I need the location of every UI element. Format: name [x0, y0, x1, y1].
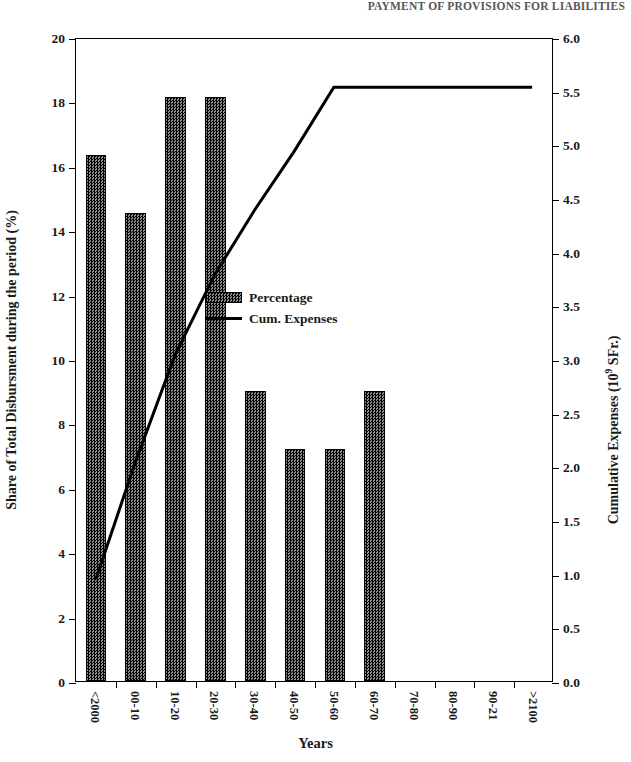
y-axis-right-tick	[552, 254, 559, 255]
x-axis-category-label: 60-70	[367, 691, 380, 720]
y-axis-right-tick-label: 1.5	[563, 515, 580, 529]
y-axis-left-tick	[69, 361, 76, 362]
y-axis-left-tick	[69, 103, 76, 104]
legend-line-swatch-icon	[206, 317, 242, 320]
legend-item-cum-expenses: Cum. Expenses	[206, 308, 386, 329]
bar	[86, 155, 107, 681]
cum-expenses-polyline	[96, 87, 532, 579]
y-axis-right-tick-label: 3.5	[563, 301, 580, 315]
y-axis-left-tick-label: 4	[58, 547, 65, 561]
x-axis-category-label: 30-40	[248, 691, 261, 720]
x-axis-category-label: 00-10	[128, 691, 141, 720]
y-axis-left-tick	[69, 554, 76, 555]
y-axis-right-title-exponent: 9	[604, 369, 614, 374]
y-axis-left-tick-label: 20	[52, 32, 66, 46]
x-axis-category-label: 10-20	[168, 691, 181, 720]
y-axis-right-tick-label: 0.5	[563, 623, 580, 637]
y-axis-right-tick	[552, 307, 559, 308]
x-axis-category-label: <2000	[88, 691, 101, 723]
y-axis-right-tick-label: 3.0	[563, 354, 580, 368]
y-axis-left-tick-label: 2	[58, 612, 65, 626]
legend-label-percentage: Percentage	[249, 290, 312, 306]
y-axis-left-tick-label: 18	[52, 97, 66, 111]
y-axis-left-tick-label: 8	[58, 419, 65, 433]
y-axis-right-title-base: Cumulative Expenses (10	[606, 373, 621, 524]
x-axis-tick	[156, 681, 157, 688]
x-axis-tick	[275, 681, 276, 688]
bar	[125, 213, 146, 682]
x-axis-tick	[315, 681, 316, 688]
y-axis-right-tick	[552, 683, 559, 684]
y-axis-right-title: Cumulative Expenses (109 SFr.)	[606, 336, 622, 525]
bar	[205, 97, 226, 681]
y-axis-right-tick-label: 5.0	[563, 140, 580, 154]
y-axis-left-tick	[69, 425, 76, 426]
y-axis-right-tick	[552, 468, 559, 469]
y-axis-left-tick	[69, 168, 76, 169]
y-axis-left-tick-label: 16	[52, 161, 66, 175]
y-axis-left-tick	[69, 619, 76, 620]
y-axis-right-tick-label: 2.0	[563, 462, 580, 476]
y-axis-right-tick	[552, 415, 559, 416]
y-axis-left-tick-label: 10	[52, 354, 66, 368]
x-axis-tick	[196, 681, 197, 688]
y-axis-left-tick	[69, 490, 76, 491]
y-axis-left-title: Share of Total Disbursment during the pe…	[4, 210, 20, 510]
x-axis-category-label: >2100	[527, 691, 540, 723]
y-axis-right-tick-label: 2.5	[563, 408, 580, 422]
y-axis-right-tick	[552, 629, 559, 630]
y-axis-right-tick-label: 4.5	[563, 193, 580, 207]
x-axis-tick	[514, 681, 515, 688]
legend-bar-swatch-icon	[206, 292, 242, 303]
x-axis-tick	[235, 681, 236, 688]
x-axis-tick	[395, 681, 396, 688]
y-axis-right-tick	[552, 200, 559, 201]
x-axis-category-label: 50-60	[327, 691, 340, 720]
y-axis-left-tick-label: 0	[58, 676, 65, 690]
x-axis-category-label: 40-50	[288, 691, 301, 720]
y-axis-left-tick	[69, 683, 76, 684]
y-axis-right-tick-label: 0.0	[563, 676, 580, 690]
x-axis-title: Years	[0, 735, 631, 752]
line-series-cum-expenses	[76, 39, 552, 681]
y-axis-right-tick-label: 6.0	[563, 32, 580, 46]
legend-item-percentage: Percentage	[206, 287, 386, 308]
x-axis-category-label: 80-90	[447, 691, 460, 720]
x-axis-tick	[474, 681, 475, 688]
y-axis-left-tick	[69, 297, 76, 298]
y-axis-right-tick	[552, 146, 559, 147]
chart-figure: Share of Total Disbursment during the pe…	[0, 0, 631, 762]
bar	[364, 391, 385, 681]
legend-label-cum-expenses: Cum. Expenses	[249, 311, 338, 327]
y-axis-right-tick-label: 5.5	[563, 86, 580, 100]
x-axis-category-label: 20-30	[208, 691, 221, 720]
bar	[165, 97, 186, 681]
y-axis-left-tick-label: 14	[52, 225, 66, 239]
bar	[285, 449, 306, 681]
x-axis-tick	[355, 681, 356, 688]
x-axis-category-label: 90-21	[487, 691, 500, 720]
bar	[325, 449, 346, 681]
y-axis-right-tick	[552, 39, 559, 40]
y-axis-right-tick	[552, 93, 559, 94]
chart-legend: Percentage Cum. Expenses	[206, 287, 386, 329]
bar	[245, 391, 266, 681]
y-axis-right-tick	[552, 576, 559, 577]
y-axis-right-tick	[552, 361, 559, 362]
y-axis-left-tick-label: 6	[58, 483, 65, 497]
y-axis-right-tick-label: 1.0	[563, 569, 580, 583]
y-axis-left-tick	[69, 39, 76, 40]
x-axis-tick	[435, 681, 436, 688]
y-axis-right-tick	[552, 522, 559, 523]
y-axis-left-tick	[69, 232, 76, 233]
y-axis-right-title-tail: SFr.)	[606, 336, 621, 369]
x-axis-category-label: 70-80	[407, 691, 420, 720]
plot-area: 02468101214161820 0.00.51.01.52.02.53.03…	[75, 38, 553, 682]
y-axis-left-tick-label: 12	[52, 290, 66, 304]
x-axis-tick	[116, 681, 117, 688]
y-axis-right-tick-label: 4.0	[563, 247, 580, 261]
